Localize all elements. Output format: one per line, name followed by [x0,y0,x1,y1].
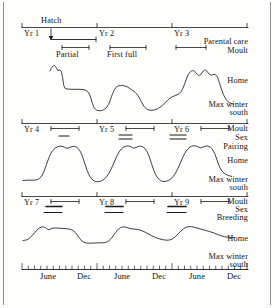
year-label-yr3: Yr 3 [174,29,189,38]
month-label-dec-2: Dec [152,272,166,281]
right-label-south-p2: south [230,183,248,192]
year-label-yr4: Yr 4 [24,125,39,134]
month-label-june-3: June [189,272,205,281]
month-label-dec-3: Dec [227,272,241,281]
month-ticks [22,264,247,270]
year-label-yr2: Yr 2 [99,29,114,38]
year-label-yr9: Yr 9 [174,198,189,207]
right-label-home-p2: Home [227,156,248,165]
year-label-yr1: Yr 1 [24,29,39,38]
right-label-home-p1: Home [227,76,248,85]
right-label-moult-p1: Moult [227,46,248,55]
right-label-pairing-p2: Pairing [223,142,248,151]
year-label-yr5: Yr 5 [99,125,114,134]
panel-3-curve [23,227,235,244]
right-label-home-p3: Home [227,234,248,243]
panel-2-curve [23,146,232,182]
moult-label-first-full: First full [107,50,137,59]
month-label-june-1: June [40,272,56,281]
year-label-yr6: Yr 6 [174,125,189,134]
right-label-south-p3: south [230,260,248,269]
month-label-dec-1: Dec [77,272,91,281]
right-label-south-p1: south [230,108,248,117]
year-label-yr7: Yr 7 [24,198,39,207]
month-label-june-2: June [114,272,130,281]
hatch-label: Hatch [41,16,62,25]
year-label-yr8: Yr 8 [99,198,114,207]
moult-label-partial: Partial [56,50,79,59]
migration-schedule-figure: Hatch Yr 1 Yr 2 Yr 3 Partial First full … [0,0,275,308]
panel-1-curve [50,66,234,111]
right-label-moult-p2: Moult [227,124,248,133]
right-label-parental-care: Parental care [204,37,248,46]
right-label-breeding-p3: Breeding [217,213,248,222]
right-label-sex-p2: Sex [235,133,248,142]
